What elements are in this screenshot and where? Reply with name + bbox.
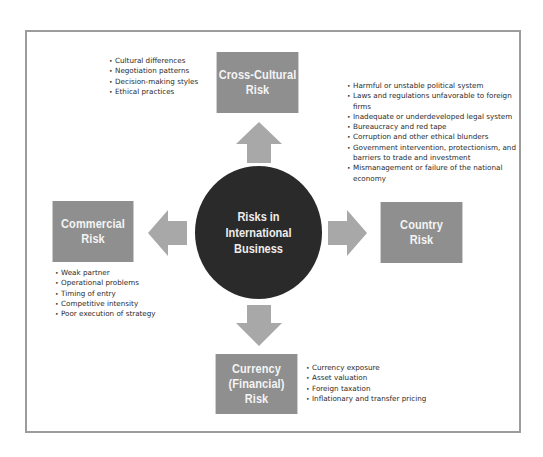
center-risks-circle: Risks in International Business bbox=[195, 166, 322, 299]
currency-factors-list: Currency exposure Asset valuation Foreig… bbox=[306, 363, 456, 404]
country-factors-list: Harmful or unstable political system Law… bbox=[347, 81, 517, 184]
commercial-risk-label: Commercial Risk bbox=[61, 217, 125, 247]
factor-item: Poor execution of strategy bbox=[55, 309, 185, 319]
factor-item: Foreign taxation bbox=[306, 384, 456, 394]
cross-cultural-risk-box: Cross-Cultural Risk bbox=[217, 52, 299, 113]
currency-risk-box: Currency (Financial) Risk bbox=[216, 354, 298, 414]
factor-item: Weak partner bbox=[55, 268, 185, 278]
arrow-up-icon bbox=[235, 121, 283, 164]
factor-item: Ethical practices bbox=[109, 87, 209, 97]
arrow-down-icon bbox=[235, 304, 283, 347]
factor-item: Decision-making styles bbox=[109, 77, 209, 87]
cross-cultural-risk-label: Cross-Cultural Risk bbox=[219, 68, 297, 98]
arrow-left-icon bbox=[147, 209, 188, 257]
factor-item: Inadequate or underdeveloped legal syste… bbox=[347, 112, 517, 122]
commercial-risk-box: Commercial Risk bbox=[53, 201, 134, 262]
commercial-factors-list: Weak partner Operational problems Timing… bbox=[55, 268, 185, 319]
factor-item: Corruption and other ethical blunders bbox=[347, 132, 517, 142]
factor-item: Timing of entry bbox=[55, 289, 185, 299]
country-risk-label: Country Risk bbox=[400, 218, 443, 248]
factor-item: Inflationary and transfer pricing bbox=[306, 394, 456, 404]
factor-item: Asset valuation bbox=[306, 373, 456, 383]
cross-cultural-factors-list: Cultural differences Negotiation pattern… bbox=[109, 56, 209, 97]
factor-item: Mismanagement or failure of the national… bbox=[347, 163, 517, 184]
factor-item: Bureaucracy and red tape bbox=[347, 122, 517, 132]
factor-item: Operational problems bbox=[55, 278, 185, 288]
factor-item: Harmful or unstable political system bbox=[347, 81, 517, 91]
factor-item: Laws and regulations unfavorable to fore… bbox=[347, 91, 517, 112]
country-risk-box: Country Risk bbox=[381, 202, 463, 263]
factor-item: Negotiation patterns bbox=[109, 66, 209, 76]
factor-item: Cultural differences bbox=[109, 56, 209, 66]
currency-risk-label: Currency (Financial) Risk bbox=[216, 362, 298, 407]
factor-item: Currency exposure bbox=[306, 363, 456, 373]
center-label: Risks in International Business bbox=[225, 209, 291, 257]
factor-item: Competitive intensity bbox=[55, 299, 185, 309]
arrow-right-icon bbox=[327, 209, 368, 257]
factor-item: Government intervention, protectionism, … bbox=[347, 143, 517, 164]
